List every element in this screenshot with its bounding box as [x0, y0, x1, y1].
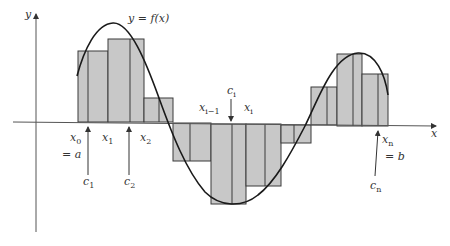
curve-label: y = f(x): [127, 12, 169, 25]
rectangle-4: [173, 123, 211, 161]
label-xi: xi: [244, 101, 253, 116]
label-x-i-minus-1: xi−1: [199, 101, 220, 116]
label-x2: x2: [140, 131, 151, 146]
label-cn: cn: [370, 179, 381, 194]
rectangle-7: [281, 125, 311, 143]
label-ci: ci: [227, 84, 236, 99]
rectangle-10: [362, 74, 388, 126]
y-axis-label: y: [24, 8, 32, 21]
label-eq-b: = b: [385, 150, 405, 163]
rectangle-5: [211, 124, 246, 204]
label-x1: x1: [102, 131, 113, 146]
rectangle-9: [337, 54, 362, 126]
rectangle-2: [108, 39, 144, 122]
label-c2: c2: [124, 175, 135, 190]
label-eq-a: = a: [62, 148, 81, 161]
arrow-cn: [375, 131, 378, 176]
label-x0: x0: [70, 131, 81, 146]
riemann-sum-diagram: y x y = f(x) x0 = a x1 x2 c1 c2 ci xi−1 …: [0, 0, 450, 246]
label-xn: xn: [382, 133, 393, 148]
rectangle-1: [78, 51, 108, 122]
label-c1: c1: [83, 175, 94, 190]
x-axis-label: x: [431, 127, 438, 140]
